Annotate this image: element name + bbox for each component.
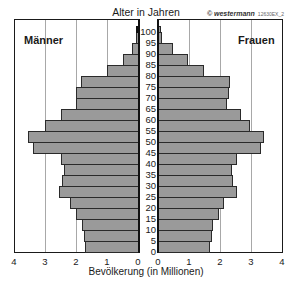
female-bar-40-45 (159, 153, 237, 165)
female-panel (157, 19, 283, 253)
female-bar-30-35 (159, 175, 233, 187)
age-tick-label: 40 (140, 159, 156, 169)
image-code: 12630EX_2 (258, 11, 284, 17)
female-bar-90-95 (159, 43, 173, 55)
age-tick-label: 35 (140, 170, 156, 180)
male-bar-100+ (136, 26, 138, 33)
female-bar-25-30 (159, 186, 237, 198)
male-bar-80-85 (107, 65, 138, 77)
female-bar-70-75 (159, 87, 229, 99)
male-bar-50-55 (28, 131, 138, 143)
age-tick-label: 25 (140, 192, 156, 202)
female-bar-50-55 (159, 131, 264, 143)
age-tick-label: 60 (140, 115, 156, 125)
age-tick-label: 80 (140, 71, 156, 81)
male-bar-10-15 (82, 219, 138, 231)
female-bar-20-25 (159, 197, 224, 209)
male-bar-0-5 (85, 241, 138, 253)
female-bar-45-50 (159, 142, 261, 154)
female-bar-10-15 (159, 219, 213, 231)
male-bar-55-60 (45, 120, 138, 132)
female-bar-35-40 (159, 164, 232, 176)
male-label: Männer (24, 34, 63, 46)
male-bar-25-30 (59, 186, 138, 198)
age-tick-label: 70 (140, 93, 156, 103)
age-tick-label: 20 (140, 203, 156, 213)
male-bar-90-95 (132, 43, 138, 55)
age-tick-label: 15 (140, 214, 156, 224)
female-bar-65-70 (159, 98, 227, 110)
age-tick-label: 55 (140, 126, 156, 136)
x-axis-label: Bevölkerung (in Millionen) (0, 266, 292, 277)
female-bar-60-65 (159, 109, 241, 121)
male-bar-85-90 (123, 54, 139, 66)
copyright-notice: © westermann12630EX_2 (207, 10, 284, 17)
male-bar-45-50 (33, 142, 138, 154)
female-bar-75-80 (159, 76, 230, 88)
male-bar-40-45 (61, 153, 139, 165)
age-tick-label: 95 (140, 38, 156, 48)
female-bar-85-90 (159, 54, 188, 66)
age-tick-label: 85 (140, 60, 156, 70)
female-bar-15-20 (159, 208, 219, 220)
age-tick-label: 5 (140, 236, 156, 246)
male-bar-95-100 (136, 32, 138, 44)
female-label: Frauen (238, 34, 275, 46)
age-tick-label: 30 (140, 181, 156, 191)
age-tick-label: 75 (140, 82, 156, 92)
age-tick-label: 45 (140, 148, 156, 158)
copyright-text: © westermann (207, 10, 255, 17)
male-bar-70-75 (76, 87, 138, 99)
male-bar-65-70 (76, 98, 138, 110)
male-bar-60-65 (61, 109, 139, 121)
male-bar-30-35 (62, 175, 138, 187)
female-bar-80-85 (159, 65, 204, 77)
age-tick-label: 10 (140, 225, 156, 235)
female-bar-95-100 (159, 32, 162, 44)
female-bar-100+ (159, 26, 161, 33)
age-tick-label: 100 (140, 27, 156, 37)
male-bar-15-20 (76, 208, 138, 220)
age-tick-label: 65 (140, 104, 156, 114)
male-panel (14, 19, 140, 253)
female-bar-55-60 (159, 120, 250, 132)
age-tick-label: 50 (140, 137, 156, 147)
female-bar-5-10 (159, 230, 212, 242)
male-bar-5-10 (84, 230, 138, 242)
male-bar-35-40 (64, 164, 138, 176)
male-bar-75-80 (81, 76, 138, 88)
male-bar-20-25 (70, 197, 138, 209)
female-bar-0-5 (159, 241, 210, 253)
age-tick-label: 90 (140, 49, 156, 59)
